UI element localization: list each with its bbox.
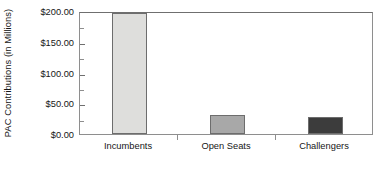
x-category-label: Open Seats [201, 141, 250, 151]
y-tick-label: $150.00 [40, 38, 74, 48]
x-tick [177, 135, 178, 140]
bar-chart-figure: PAC Contributions (in Millions) $0.00$50… [0, 0, 385, 169]
y-major-tick [80, 105, 85, 106]
plot-inner [80, 13, 372, 134]
y-axis-title-text: PAC Contributions (in Millions) [3, 8, 13, 136]
y-tick-label: $50.00 [46, 99, 74, 109]
x-category-label: Challengers [299, 141, 349, 151]
y-axis-title: PAC Contributions (in Millions) [0, 0, 16, 145]
y-tick-label: $0.00 [51, 130, 74, 140]
x-tick [275, 135, 276, 140]
y-major-tick [80, 75, 85, 76]
x-category-label: Incumbents [104, 141, 152, 151]
y-tick-label: $200.00 [40, 7, 74, 17]
plot-area [79, 12, 373, 135]
y-major-tick [80, 44, 85, 45]
y-minor-tick [80, 121, 84, 122]
bar [112, 13, 147, 134]
bar [210, 115, 245, 134]
y-tick-label: $100.00 [40, 69, 74, 79]
y-minor-tick [80, 28, 84, 29]
bar [308, 117, 343, 134]
y-minor-tick [80, 59, 84, 60]
y-minor-tick [80, 90, 84, 91]
y-axis-tick-labels: $0.00$50.00$100.00$150.00$200.00 [16, 12, 78, 135]
